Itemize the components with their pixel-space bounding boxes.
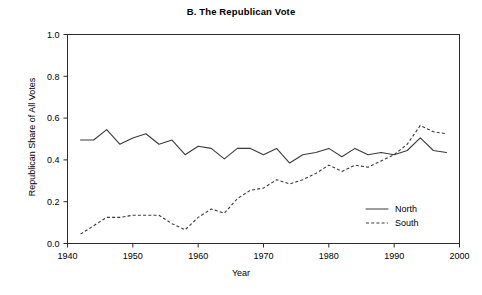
y-tick-label: 0.0 (47, 239, 60, 249)
x-tick-label: 1990 (384, 251, 404, 261)
y-axis-ticks: 0.00.20.40.60.81.0 (47, 30, 68, 249)
x-tick-label: 1950 (123, 251, 143, 261)
x-tick-label: 1980 (319, 251, 339, 261)
x-axis-ticks: 1940195019601970198019902000 (57, 244, 469, 261)
plot-area: 1940195019601970198019902000 0.00.20.40.… (0, 0, 482, 295)
y-tick-label: 0.8 (47, 72, 60, 82)
y-tick-label: 0.6 (47, 113, 60, 123)
x-tick-label: 1960 (188, 251, 208, 261)
chart-figure: B. The Republican Vote Republican Share … (0, 0, 482, 295)
y-tick-label: 0.4 (47, 155, 60, 165)
legend-label-south: South (395, 218, 419, 228)
legend-label-north: North (395, 204, 417, 214)
series-line-south (81, 125, 447, 234)
y-tick-label: 1.0 (47, 30, 60, 40)
x-tick-label: 1970 (253, 251, 273, 261)
y-tick-label: 0.2 (47, 197, 60, 207)
data-series-group (81, 125, 447, 234)
x-tick-label: 2000 (449, 251, 469, 261)
series-line-north (81, 130, 447, 163)
x-tick-label: 1940 (57, 251, 77, 261)
chart-legend: NorthSouth (366, 204, 419, 228)
